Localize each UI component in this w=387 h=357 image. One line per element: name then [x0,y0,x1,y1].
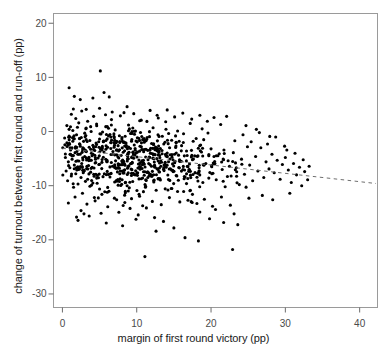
data-point-fill [121,146,124,149]
data-point-fill [119,169,122,172]
x-tick-label: 0 [60,318,66,329]
data-point-fill [145,138,148,141]
data-point [285,148,288,151]
data-point-fill [156,133,159,136]
data-point-fill [231,160,234,163]
data-point-fill [134,147,137,150]
data-point-fill [68,138,71,141]
data-point-fill [77,160,80,163]
data-point [230,174,233,177]
data-point [208,217,211,220]
data-point [84,180,87,183]
data-point-fill [124,142,127,145]
data-point-fill [100,146,103,149]
data-point [170,139,173,142]
data-point-fill [186,154,189,157]
data-point [258,131,261,134]
data-point-fill [98,173,101,176]
data-point [93,196,96,199]
data-point-fill [131,126,134,129]
data-point [295,173,298,176]
data-point-fill [135,189,138,192]
data-point-fill [148,130,151,133]
data-point-fill [112,135,115,138]
data-point [279,178,282,181]
data-point-fill [90,167,93,170]
data-point-fill [127,189,130,192]
data-point-fill [190,149,193,152]
data-point [206,120,209,123]
x-tick-label: 40 [354,318,366,329]
data-point-fill [161,135,164,138]
data-point-fill [158,167,161,170]
data-point-fill [113,141,116,144]
data-point [102,91,105,94]
data-point [126,105,129,108]
data-point-fill [168,146,171,149]
y-tick-label: 10 [35,72,47,83]
data-point-fill [124,135,127,138]
data-point-fill [178,140,181,143]
data-point [104,113,107,116]
data-point [181,112,184,115]
data-point-fill [140,141,143,144]
data-point-fill [145,120,148,123]
data-point [233,139,236,142]
data-point-fill [101,175,104,178]
data-point-fill [138,139,141,142]
data-point [70,113,73,116]
data-point-fill [164,128,167,131]
data-point-fill [72,182,75,185]
data-point-fill [143,174,146,177]
data-point-fill [86,140,89,143]
data-point-fill [80,136,83,139]
data-point-fill [81,151,84,154]
data-point-fill [166,139,169,142]
y-tick-label: 0 [41,126,47,137]
data-point-fill [105,144,108,147]
data-point-fill [155,167,158,170]
data-point [177,179,180,182]
data-point-fill [206,131,209,134]
data-point-fill [156,114,159,117]
data-point-fill [153,160,156,163]
data-point-fill [172,182,175,185]
data-point [262,176,265,179]
data-point [229,204,232,207]
data-point [203,198,206,201]
data-point-fill [98,137,101,140]
data-point [155,230,158,233]
data-point-fill [67,164,70,167]
data-point-fill [245,186,248,189]
data-point [231,248,234,251]
data-point [79,176,82,179]
data-point [79,209,82,212]
data-point-fill [90,154,93,157]
data-point [117,184,120,187]
data-point-fill [116,170,119,173]
data-point-fill [87,156,90,159]
data-point-fill [193,171,196,174]
y-tick-label: -10 [32,180,47,191]
data-point-fill [154,145,157,148]
data-point-fill [95,141,98,144]
data-point-fill [72,108,75,111]
data-point [98,107,101,110]
data-point [261,194,264,197]
data-point-fill [106,186,109,189]
data-point-fill [117,144,120,147]
data-point-fill [88,139,91,142]
data-point-fill [114,159,117,162]
data-point-fill [223,152,226,155]
data-point [74,196,77,199]
data-point [111,110,114,113]
data-point-fill [144,165,147,168]
data-point [240,158,243,161]
data-point-fill [163,163,166,166]
data-point [255,128,258,131]
data-point [92,115,95,118]
data-point [65,170,68,173]
data-point [298,166,301,169]
data-point-fill [103,190,106,193]
data-point [63,136,66,139]
